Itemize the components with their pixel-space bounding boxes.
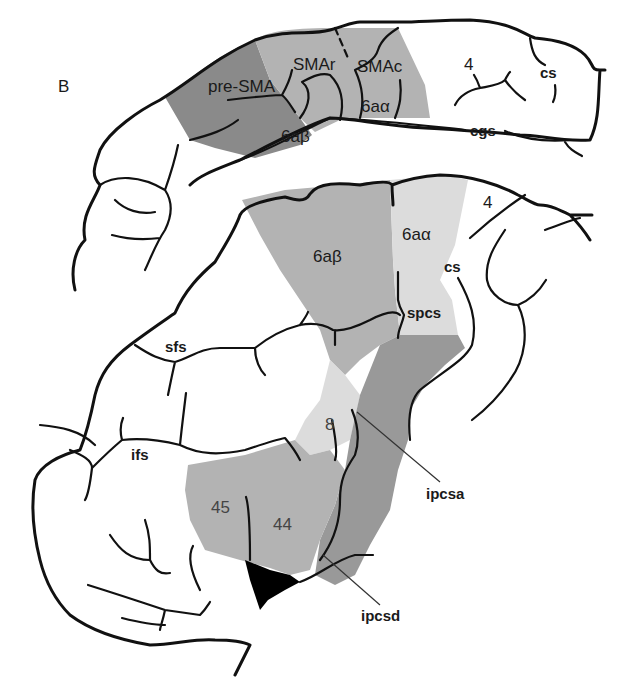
region-6ab-lateral [242, 180, 400, 375]
label-cs-lateral: cs [444, 258, 461, 275]
brain-diagram-figure: B pre-SMA SMAr SMAc 6aβ 6aα 4 cs cgs [0, 0, 624, 691]
label-spcs: spcs [407, 304, 441, 321]
label-ifs: ifs [131, 446, 149, 463]
label-ipcsd: ipcsd [361, 607, 400, 624]
label-sfs: sfs [165, 338, 187, 355]
medial-gyrus-outline [100, 145, 178, 270]
label-cgs: cgs [470, 122, 496, 139]
label-6aa-lateral: 6aα [402, 225, 431, 244]
orbital-sulci [88, 520, 210, 630]
label-pre-sma: pre-SMA [208, 77, 276, 96]
lateral-view: 6aβ 6aα 4 8 45 44 cs spcs sfs ifs ipcsa … [33, 175, 592, 675]
label-ipcsa: ipcsa [426, 485, 465, 502]
label-6ab-lateral: 6aβ [313, 247, 342, 266]
label-4-medial: 4 [464, 55, 473, 74]
label-6aa-medial: 6aα [361, 97, 390, 116]
label-area-45: 45 [211, 498, 230, 517]
brain-diagram-svg: B pre-SMA SMAr SMAc 6aβ 6aα 4 cs cgs [0, 0, 624, 691]
label-smac: SMAc [357, 57, 403, 76]
label-cs-medial: cs [540, 64, 557, 81]
label-area-8: 8 [325, 415, 334, 434]
area4-medial-sulcus [455, 72, 525, 105]
panel-label: B [58, 77, 69, 96]
label-smar: SMAr [293, 55, 336, 74]
label-6ab-medial: 6aβ [281, 127, 310, 146]
label-4-lateral: 4 [483, 193, 492, 212]
label-area-44: 44 [273, 515, 292, 534]
